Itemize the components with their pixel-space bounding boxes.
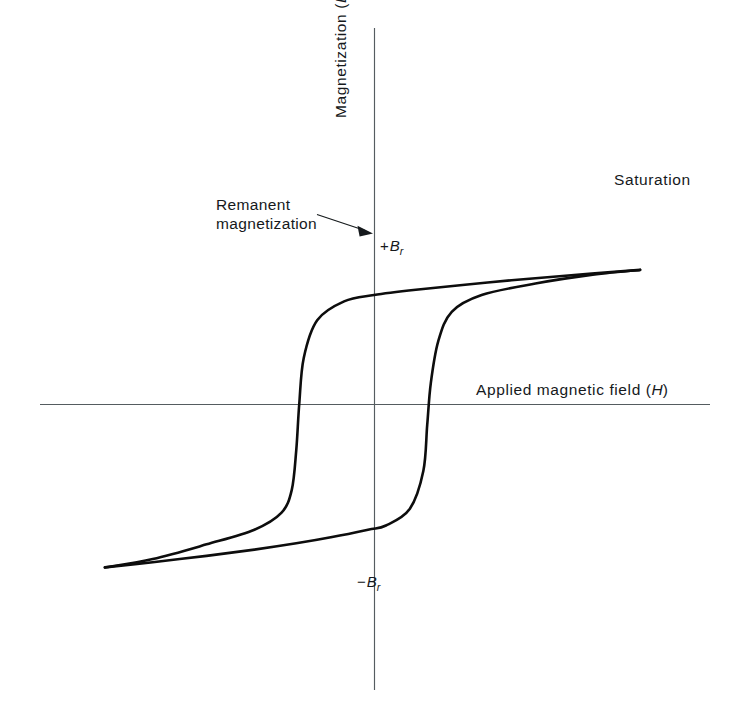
saturation-annotation: Saturation xyxy=(614,171,691,189)
remanent-annotation-line-2: magnetization xyxy=(216,215,317,234)
br-positive-subscript: r xyxy=(400,245,404,257)
br-negative-subscript: r xyxy=(377,581,381,593)
y-axis-label: Magnetization (B) xyxy=(332,0,350,118)
y-axis-label-prefix: Magnetization ( xyxy=(332,3,349,118)
hysteresis-plot-canvas xyxy=(0,0,729,712)
remanent-magnetization-annotation: Remanentmagnetization xyxy=(216,196,317,234)
loop-ascending-branch xyxy=(105,270,640,567)
remanent-annotation-line-1: Remanent xyxy=(216,196,290,213)
leader-line xyxy=(317,215,365,231)
remanence-positive-label: +Br xyxy=(380,237,403,258)
y-axis-label-symbol: B xyxy=(332,0,349,3)
x-axis-label-symbol: H xyxy=(652,381,663,398)
br-negative-sign: − xyxy=(357,573,367,590)
remanence-negative-label: −Br xyxy=(357,573,380,594)
br-positive-sign: + xyxy=(380,237,390,254)
br-positive-symbol: B xyxy=(390,237,400,254)
arrowhead-icon xyxy=(358,226,374,237)
x-axis-label-prefix: Applied magnetic field ( xyxy=(476,381,652,398)
remanent-magnetization-leader xyxy=(317,215,373,237)
x-axis-label: Applied magnetic field (H) xyxy=(476,381,668,399)
loop-descending-branch xyxy=(105,270,640,567)
br-negative-symbol: B xyxy=(367,573,377,590)
hysteresis-figure: Magnetization (B) Applied magnetic field… xyxy=(0,0,729,712)
hysteresis-loop-final xyxy=(105,270,640,567)
x-axis-label-suffix: ) xyxy=(663,381,669,398)
